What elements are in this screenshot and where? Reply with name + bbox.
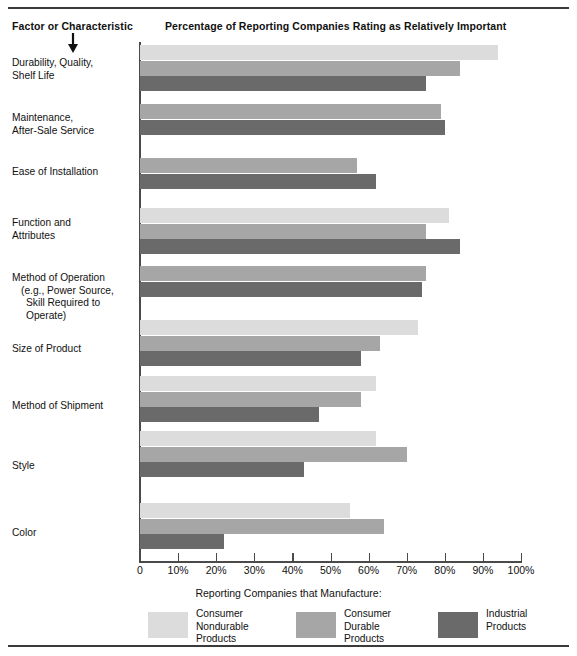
bar [140, 45, 498, 60]
bar [140, 266, 426, 281]
x-axis-tick-label: 10% [168, 564, 189, 576]
legend-item: Consumer Durable Products [296, 608, 391, 646]
category-label: Maintenance,After-Sale Service [12, 112, 138, 137]
bar [140, 104, 441, 119]
bar [140, 447, 407, 462]
legend-swatch-consumer-durable [296, 612, 336, 638]
legend-label: Industrial Products [486, 608, 527, 633]
category-label: Function andAttributes [12, 217, 138, 242]
x-axis-tick-label: 80% [434, 564, 455, 576]
bar [140, 174, 376, 189]
bar [140, 431, 376, 446]
x-axis-tick-label: 100% [508, 564, 535, 576]
x-axis-tick [445, 553, 446, 562]
category-label-line: Ease of Installation [12, 166, 138, 179]
x-axis-tick [369, 553, 370, 562]
legend-label: Consumer Durable Products [344, 608, 391, 646]
x-axis-tick-label: 90% [472, 564, 493, 576]
legend-label: Consumer Nondurable Products [196, 608, 249, 646]
category-label-line: Method of Shipment [12, 400, 138, 413]
x-axis-tick [254, 553, 255, 562]
bar [140, 61, 460, 76]
x-axis-tick-label: 70% [396, 564, 417, 576]
legend-item: Industrial Products [438, 608, 527, 638]
bar [140, 519, 384, 534]
category-label-line: Attributes [12, 230, 138, 243]
category-label-line: Maintenance, [12, 112, 138, 125]
category-label: Method of Operation(e.g., Power Source,S… [12, 272, 138, 322]
bar [140, 120, 445, 135]
x-axis-tick-label: 0 [137, 564, 143, 576]
category-label: Style [12, 460, 138, 473]
bar [140, 320, 418, 335]
x-axis-tick-label: 20% [206, 564, 227, 576]
x-axis-tick [292, 553, 293, 562]
x-axis-tick [140, 553, 141, 562]
category-label-line: Shelf Life [12, 70, 138, 83]
legend-title: Reporting Companies that Manufacture: [195, 587, 381, 599]
category-label: Color [12, 527, 138, 540]
category-label-line: Size of Product [12, 343, 138, 356]
category-label-line: Durability, Quality, [12, 57, 138, 70]
category-label: Ease of Installation [12, 166, 138, 179]
x-axis-tick [483, 553, 484, 562]
category-label-line: Skill Required to Operate) [12, 297, 138, 322]
x-axis-tick-label: 60% [358, 564, 379, 576]
category-label: Durability, Quality,Shelf Life [12, 57, 138, 82]
bar [140, 239, 460, 254]
bar [140, 282, 422, 297]
bar [140, 336, 380, 351]
x-axis-tick [407, 553, 408, 562]
category-label-line: Function and [12, 217, 138, 230]
x-axis-tick-label: 50% [320, 564, 341, 576]
category-label-line: (e.g., Power Source, [12, 285, 138, 298]
category-label: Method of Shipment [12, 400, 138, 413]
bar [140, 376, 376, 391]
bar [140, 407, 319, 422]
category-label-line: Color [12, 527, 138, 540]
category-label-line: Style [12, 460, 138, 473]
legend-swatch-industrial [438, 612, 478, 638]
bar [140, 462, 304, 477]
legend-item: Consumer Nondurable Products [148, 608, 249, 646]
x-axis-tick [521, 553, 522, 562]
legend-swatch-consumer-nondurable [148, 612, 188, 638]
category-label-line: Method of Operation [12, 272, 138, 285]
bar [140, 158, 357, 173]
bar [140, 392, 361, 407]
x-axis-tick [178, 553, 179, 562]
bar [140, 534, 224, 549]
plot-area: 010%20%30%40%50%60%70%80%90%100% Durabil… [0, 0, 577, 656]
x-axis-tick [331, 553, 332, 562]
bar [140, 351, 361, 366]
x-axis-tick-label: 40% [282, 564, 303, 576]
x-axis-tick-label: 30% [244, 564, 265, 576]
bar [140, 224, 426, 239]
category-label: Size of Product [12, 343, 138, 356]
x-axis-tick [216, 553, 217, 562]
bar [140, 503, 350, 518]
bar [140, 208, 449, 223]
bar [140, 76, 426, 91]
category-label-line: After-Sale Service [12, 125, 138, 138]
chart-figure: Factor or Characteristic Percentage of R… [0, 0, 577, 656]
